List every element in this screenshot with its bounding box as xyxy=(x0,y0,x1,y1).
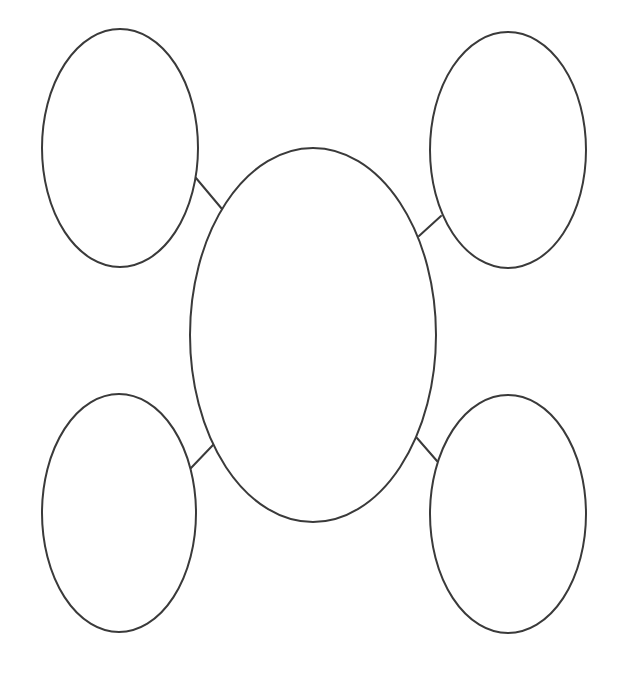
node-bottom-right[interactable] xyxy=(430,395,586,633)
node-bottom-right-shape[interactable] xyxy=(430,395,586,633)
node-bottom-left[interactable] xyxy=(42,394,196,632)
node-center-shape[interactable] xyxy=(190,148,436,522)
node-top-right[interactable] xyxy=(430,32,586,268)
node-top-left-shape[interactable] xyxy=(42,29,198,267)
node-center[interactable] xyxy=(190,148,436,522)
node-top-right-shape[interactable] xyxy=(430,32,586,268)
node-bottom-left-shape[interactable] xyxy=(42,394,196,632)
node-top-left[interactable] xyxy=(42,29,198,267)
bubble-map-diagram xyxy=(0,0,634,678)
